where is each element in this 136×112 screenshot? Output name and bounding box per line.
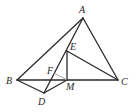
segment-BD	[17, 80, 44, 93]
geometry-diagram: A B C D E F M	[0, 0, 136, 112]
label-A: A	[78, 4, 86, 15]
label-B: B	[6, 75, 12, 86]
label-M: M	[65, 81, 75, 92]
label-F: F	[46, 65, 54, 76]
label-C: C	[121, 76, 128, 87]
label-D: D	[37, 96, 46, 107]
segment-FM	[54, 73, 67, 80]
label-E: E	[69, 41, 76, 52]
